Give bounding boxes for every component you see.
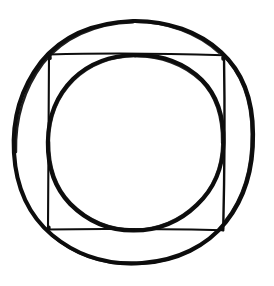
- inner-circle: [48, 55, 224, 231]
- inner-circle-weight-lower-right: [134, 143, 222, 229]
- figure-svg: Hand-drawn geometric figure A circle cir…: [0, 0, 274, 286]
- inner-circle-weight-upper-right: [135, 56, 222, 143]
- geometric-figure-canvas: Hand-drawn geometric figure A circle cir…: [0, 0, 274, 286]
- inner-circle-weight-left: [49, 56, 135, 142]
- inner-circle-weight-lower-left: [49, 142, 134, 229]
- outer-circle-weight-upper-left: [16, 22, 133, 152]
